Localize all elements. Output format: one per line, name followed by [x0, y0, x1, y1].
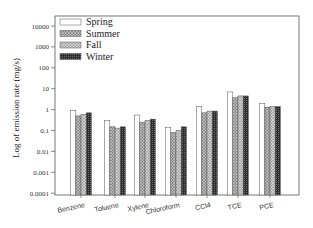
x-category-label: PCE: [259, 201, 275, 211]
y-tick-label: 0.0001: [30, 190, 50, 198]
bars-group: [71, 92, 281, 195]
bar-summer: [76, 116, 81, 195]
x-category-label: CCl4: [195, 201, 212, 211]
bar-spring: [166, 127, 171, 195]
y-axis-title: Log of emission rate (mg/s): [11, 58, 21, 158]
bar-group-benzene: [71, 111, 92, 195]
bar-winter: [212, 111, 217, 195]
y-axis: 0.00010.0010.010.1110100100010000: [30, 23, 55, 198]
x-category-label: Chloroform: [145, 201, 180, 215]
legend-swatch: [60, 42, 81, 48]
bar-winter: [86, 113, 91, 195]
bar-fall: [115, 128, 120, 195]
legend-label: Spring: [86, 16, 113, 27]
bar-fall: [176, 131, 181, 196]
y-tick-label: 0.01: [37, 148, 50, 156]
bar-group-tce: [228, 92, 249, 195]
bar-spring: [105, 121, 110, 195]
bar-spring: [197, 107, 202, 195]
bar-fall: [81, 114, 86, 195]
legend-item-spring: Spring: [60, 16, 113, 27]
x-category-label: Benzene: [57, 201, 86, 214]
bar-group-pce: [260, 103, 281, 195]
x-category-label: TCE: [227, 201, 242, 211]
bar-spring: [228, 92, 233, 195]
legend-item-winter: Winter: [60, 51, 114, 62]
legend-item-fall: Fall: [60, 39, 102, 50]
legend-swatch: [60, 54, 81, 60]
bar-chart: 0.00010.0010.010.1110100100010000 Benzen…: [0, 0, 313, 228]
legend-item-summer: Summer: [60, 28, 121, 39]
y-tick-label: 10000: [32, 23, 50, 31]
legend: SpringSummerFallWinter: [60, 16, 121, 62]
legend-label: Fall: [86, 39, 102, 50]
bar-summer: [233, 98, 238, 195]
bar-spring: [260, 103, 265, 195]
bar-summer: [171, 133, 176, 195]
legend-swatch: [60, 19, 81, 25]
bar-winter: [150, 119, 155, 195]
bar-group-ccl4: [197, 107, 218, 195]
y-tick-label: 100: [39, 64, 50, 72]
bar-winter: [120, 127, 125, 195]
y-tick-label: 0.001: [33, 169, 49, 177]
bar-summer: [202, 113, 207, 195]
bar-summer: [110, 127, 115, 195]
bar-fall: [207, 111, 212, 195]
bar-fall: [238, 96, 243, 195]
bar-winter: [275, 107, 280, 195]
bar-fall: [270, 107, 275, 195]
y-tick-label: 0.1: [40, 127, 49, 135]
bar-fall: [145, 121, 150, 195]
bar-group-toluene: [105, 121, 126, 195]
y-tick-label: 1: [46, 106, 50, 114]
legend-swatch: [60, 31, 81, 37]
bar-summer: [140, 122, 145, 195]
bar-group-xylene: [135, 115, 156, 195]
bar-spring: [135, 115, 140, 195]
x-axis: BenzeneTolueneXyleneChloroformCCl4TCEPCE: [57, 195, 275, 215]
legend-label: Winter: [86, 51, 114, 62]
x-category-label: Toluene: [94, 201, 120, 213]
bar-winter: [243, 96, 248, 195]
y-tick-label: 1000: [35, 43, 50, 51]
legend-label: Summer: [86, 28, 121, 39]
bar-group-chloroform: [166, 127, 187, 195]
y-tick-label: 10: [42, 85, 50, 93]
bar-summer: [265, 107, 270, 195]
bar-winter: [181, 127, 186, 195]
bar-spring: [71, 111, 76, 195]
